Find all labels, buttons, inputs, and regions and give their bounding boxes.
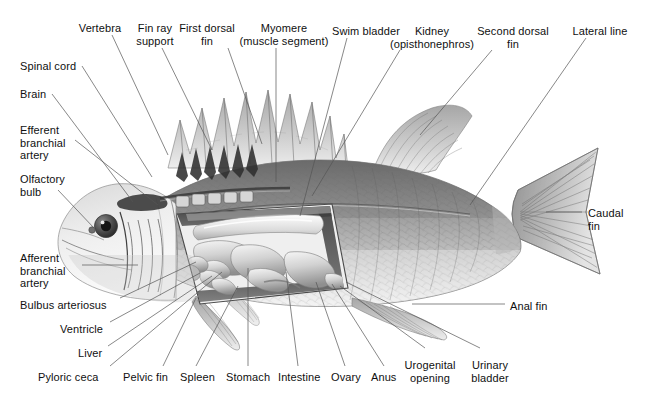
label-efferent-branchial: Efferent branchial artery bbox=[20, 124, 66, 162]
label-pelvic-fin: Pelvic fin bbox=[123, 371, 168, 384]
label-anus: Anus bbox=[371, 371, 396, 384]
label-urinary-bladder: Urinary bladder bbox=[471, 359, 508, 384]
label-layer: VertebraFin ray supportFirst dorsal finM… bbox=[0, 0, 645, 401]
label-caudal-fin: Caudal fin bbox=[588, 207, 623, 232]
label-liver: Liver bbox=[78, 347, 102, 360]
label-urogenital-opening: Urogenital opening bbox=[404, 359, 455, 384]
label-myomere: Myomere (muscle segment) bbox=[239, 22, 328, 47]
label-intestine: Intestine bbox=[278, 371, 320, 384]
label-afferent-branchial: Afferent branchial artery bbox=[20, 252, 66, 290]
label-olfactory-bulb: Olfactory bulb bbox=[20, 173, 65, 198]
label-spinal-cord: Spinal cord bbox=[20, 60, 76, 73]
label-first-dorsal-fin: First dorsal fin bbox=[179, 22, 235, 47]
label-vertebra: Vertebra bbox=[79, 22, 121, 35]
label-kidney: Kidney (opisthonephros) bbox=[390, 25, 474, 50]
label-stomach: Stomach bbox=[226, 371, 270, 384]
label-anal-fin: Anal fin bbox=[510, 300, 548, 313]
fish-anatomy-diagram: VertebraFin ray supportFirst dorsal finM… bbox=[0, 0, 645, 401]
label-second-dorsal-fin: Second dorsal fin bbox=[477, 25, 549, 50]
label-fin-ray-support: Fin ray support bbox=[136, 22, 173, 47]
label-pyloric-ceca: Pyloric ceca bbox=[38, 371, 99, 384]
label-ventricle: Ventricle bbox=[60, 323, 103, 336]
label-bulbus-arteriosus: Bulbus arteriosus bbox=[20, 299, 107, 312]
label-ovary: Ovary bbox=[331, 371, 361, 384]
label-lateral-line: Lateral line bbox=[572, 25, 627, 38]
label-spleen: Spleen bbox=[180, 371, 215, 384]
label-brain: Brain bbox=[20, 88, 46, 101]
